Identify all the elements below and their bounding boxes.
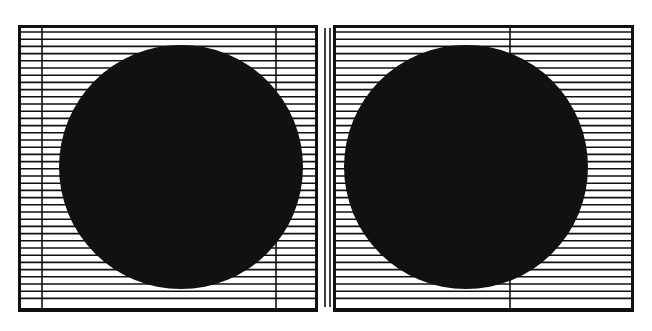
right-panel: [333, 25, 634, 312]
black-circle: [344, 45, 588, 289]
black-circle: [59, 45, 303, 289]
left-panel: [18, 25, 318, 312]
center-divider: [325, 28, 330, 307]
illusion-figure: [0, 0, 652, 331]
